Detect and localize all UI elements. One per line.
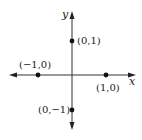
coordinate-plane-diagram: y x (0,1) (−1,0) (1,0) (0,−1) (0, 0, 142, 140)
point-left (36, 73, 41, 78)
point-bottom-label: (0,−1) (38, 104, 70, 115)
y-axis-label: y (61, 8, 69, 21)
diagram-svg: y x (0,1) (−1,0) (1,0) (0,−1) (0, 0, 142, 140)
point-top-label: (0,1) (77, 35, 101, 46)
x-axis-left-arrow-icon (9, 73, 17, 78)
y-axis-up-arrow-icon (70, 11, 75, 19)
point-left-label: (−1,0) (19, 59, 51, 70)
x-axis-label: x (129, 75, 136, 88)
point-right (104, 73, 109, 78)
point-right-label: (1,0) (96, 82, 120, 93)
y-axis-down-arrow-icon (70, 122, 75, 130)
point-bottom (70, 108, 75, 113)
point-top (70, 39, 75, 44)
